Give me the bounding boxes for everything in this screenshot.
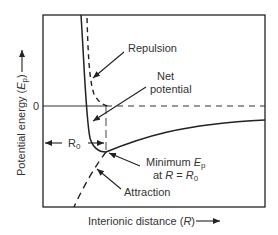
y-axis-close: ) [15, 74, 27, 78]
x-axis-label: Interionic distance ( [88, 215, 184, 227]
repulsion-pointer [93, 52, 124, 78]
potential-energy-diagram: R0 0 Potential energy (Ep) Interionic di… [0, 0, 278, 235]
minimum-eq: = [173, 169, 186, 181]
net-label-line2: potential [150, 83, 192, 95]
svg-text:Minimum Ep: Minimum Ep [146, 156, 206, 170]
net-pointer [93, 87, 146, 121]
minimum-label-sub: p [201, 161, 206, 170]
r0-label: R [68, 137, 76, 149]
minimum-at: at [153, 169, 165, 181]
minimum-R0: R [186, 169, 194, 181]
minimum-R0-sub: 0 [194, 174, 199, 183]
svg-text:at R = R0: at R = R0 [153, 169, 199, 183]
r0-sub: 0 [76, 142, 81, 151]
x-axis-symbol: R [183, 215, 191, 227]
svg-text:R0: R0 [68, 137, 81, 151]
svg-text:Potential energy (Ep): Potential energy (Ep) [15, 74, 29, 176]
svg-text:Interionic distance (R): Interionic distance (R) [88, 215, 195, 227]
attraction-label: Attraction [124, 186, 170, 198]
attraction-curve [74, 152, 106, 207]
minimum-label-text: Minimum [146, 156, 194, 168]
zero-tick-label: 0 [33, 100, 39, 112]
minimum-R: R [165, 169, 173, 181]
y-axis-label: Potential energy ( [15, 89, 27, 176]
net-label-line1: Net [157, 70, 174, 82]
repulsion-label: Repulsion [128, 42, 177, 54]
attraction-pointer [97, 169, 121, 189]
x-axis-close: ) [191, 215, 195, 227]
minimum-pointer [109, 153, 140, 166]
repulsion-curve [87, 18, 108, 106]
